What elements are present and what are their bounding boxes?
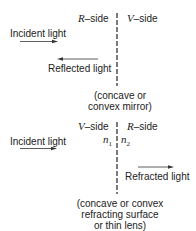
incident-light-label-top: Incident light	[10, 28, 66, 39]
r-side-label: R–side	[78, 13, 109, 24]
side-suffix: –side	[134, 13, 158, 24]
reflected-arrow	[57, 57, 98, 60]
v-side-label: V–side	[127, 13, 158, 24]
n2-subscript: 2	[127, 140, 131, 148]
side-suffix: –side	[134, 121, 158, 132]
incident-arrow-top	[20, 40, 58, 43]
incident-light-label-bottom: Incident light	[10, 136, 66, 147]
incident-arrow-bottom	[20, 147, 57, 150]
n1-index-label: n1	[103, 134, 112, 150]
refracted-light-label: Refracted light	[125, 171, 189, 182]
side-suffix: –side	[85, 13, 109, 24]
mirror-caption-line-2: convex mirror)	[80, 101, 160, 112]
side-letter: R	[127, 120, 134, 132]
n2-index-label: n2	[121, 134, 130, 150]
r-side-label-bottom: R–side	[127, 121, 158, 132]
refraction-caption-line-2: refracting surface	[70, 209, 170, 220]
refraction-caption-line-1: (concave or convex	[70, 198, 170, 209]
side-letter: R	[78, 12, 85, 24]
side-letter: V	[78, 120, 85, 132]
v-side-label-bottom: V–side	[78, 121, 109, 132]
mirror-caption-line-1: (concave or	[80, 90, 160, 101]
side-letter: V	[127, 12, 134, 24]
refraction-caption-line-3: or thin lens)	[70, 220, 170, 231]
n1-subscript: 1	[109, 140, 113, 148]
side-suffix: –side	[85, 121, 109, 132]
refracted-arrow	[138, 165, 174, 168]
reflected-light-label: Reflected light	[48, 63, 111, 74]
